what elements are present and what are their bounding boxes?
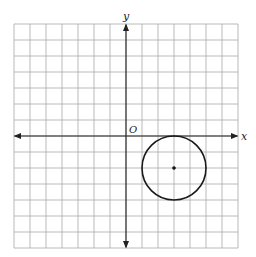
coordinate-plane: x y O xyxy=(0,0,256,257)
circle-center-point xyxy=(172,166,176,170)
axes: x y O xyxy=(15,10,248,247)
origin-label: O xyxy=(129,124,137,135)
x-axis-label: x xyxy=(241,130,248,143)
y-axis-label: y xyxy=(122,10,130,23)
